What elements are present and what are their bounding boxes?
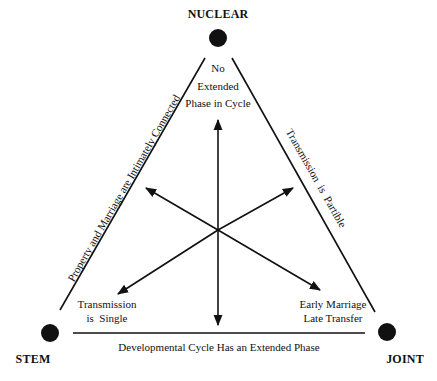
vertex-dot-nuclear — [209, 29, 227, 47]
edge-label-left: Property and Marriage are Intimately Con… — [65, 92, 182, 283]
arrow-lower-right-icon — [218, 230, 320, 290]
vertex-dot-joint — [378, 323, 396, 341]
vertex-label-stem: STEM — [16, 352, 51, 366]
arrow-lower-left-icon — [118, 230, 218, 294]
corner-text-left: Transmission is Single — [78, 298, 137, 324]
corner-text-line: is Single — [87, 312, 128, 324]
corner-text-right: Early Marriage Late Transfer — [300, 298, 367, 324]
edge-right-line — [232, 58, 375, 312]
arrow-upper-right-icon — [218, 188, 293, 230]
vertex-label-nuclear: NUCLEAR — [188, 7, 249, 21]
corner-text-line: Phase in Cycle — [185, 97, 250, 109]
edge-label-right: Transmission is Partible — [284, 127, 349, 230]
corner-text-line: Late Transfer — [304, 312, 363, 324]
vertex-label-joint: JOINT — [386, 352, 424, 366]
corner-text-line: Transmission — [78, 298, 137, 310]
corner-text-top: No Extended Phase in Cycle — [185, 62, 250, 109]
edge-label-bottom: Developmental Cycle Has an Extended Phas… — [118, 341, 319, 353]
corner-text-line: Early Marriage — [300, 298, 367, 310]
corner-text-line: Extended — [197, 80, 239, 92]
arrow-upper-left-icon — [146, 188, 218, 230]
corner-text-line: No — [211, 62, 225, 74]
triangle-diagram: NUCLEAR STEM JOINT Property and Marriage… — [0, 0, 437, 381]
vertex-dot-stem — [41, 324, 59, 342]
